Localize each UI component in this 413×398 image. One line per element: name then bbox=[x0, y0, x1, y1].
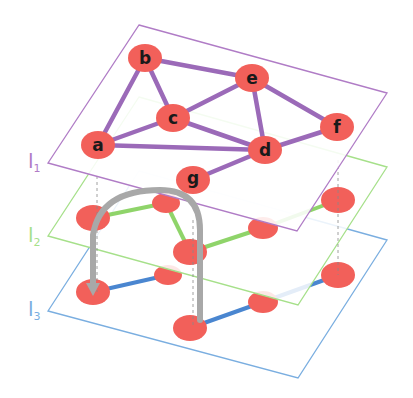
layer-l2-label: l2 bbox=[28, 223, 41, 249]
node-e-label: e bbox=[246, 68, 258, 88]
node-b: b bbox=[128, 44, 162, 72]
node-b-label: b bbox=[139, 48, 151, 68]
multilayer-network-diagram: a b c d e f g l1 l2 l3 bbox=[0, 0, 413, 398]
node-g-label: g bbox=[187, 168, 199, 188]
node-d: d bbox=[248, 136, 282, 164]
node-f: f bbox=[320, 113, 354, 141]
layer-l3-label: l3 bbox=[28, 297, 41, 323]
node-f-label: f bbox=[333, 117, 341, 137]
layer-l1-label: l1 bbox=[28, 149, 41, 175]
node-a-label: a bbox=[92, 135, 103, 155]
node-e: e bbox=[235, 64, 269, 92]
node-c: c bbox=[156, 104, 190, 132]
node-d-label: d bbox=[259, 140, 271, 160]
node-a: a bbox=[81, 131, 115, 159]
node-g: g bbox=[176, 166, 210, 194]
node-c-label: c bbox=[168, 108, 178, 128]
